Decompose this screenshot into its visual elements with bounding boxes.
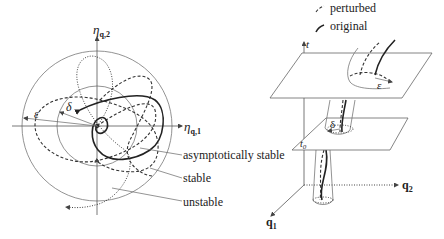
original-legend-line	[316, 25, 324, 32]
t0-plane	[292, 118, 408, 150]
asymptotically-stable-label: asymptotically stable	[183, 148, 285, 162]
stable-leader	[150, 168, 182, 178]
q2-label: q2	[402, 178, 413, 194]
stability-diagram-figure: ηq,2 ηq,1 ε δ asymptotically stable stab…	[0, 0, 444, 239]
tube-lower	[313, 150, 333, 205]
epsilon-label: ε	[34, 107, 39, 121]
q1-axis	[271, 185, 304, 216]
delta-label: δ	[66, 100, 72, 114]
q1-label: q1	[266, 215, 277, 231]
perturbed-legend-line	[316, 6, 324, 12]
trajectory-tube-diagram: perturbed original t q2 q1 t0 δ	[266, 1, 432, 231]
phase-plane-diagram: ηq,2 ηq,1 ε δ asymptotically stable stab…	[12, 22, 285, 215]
original-label: original	[330, 19, 368, 33]
tube-bottom-ellipse	[313, 197, 333, 203]
stable-trajectory	[35, 97, 158, 172]
right-delta-label: δ	[330, 118, 335, 130]
unstable-label: unstable	[183, 195, 223, 209]
eta-q1-label: ηq,1	[184, 119, 201, 136]
right-epsilon-label: ε	[377, 79, 382, 91]
eta-q2-label: ηq,2	[93, 22, 110, 39]
perturbed-label: perturbed	[330, 1, 376, 15]
t-axis-label: t	[306, 38, 310, 50]
unstable-leader	[112, 188, 182, 201]
stable-label: stable	[183, 171, 211, 185]
